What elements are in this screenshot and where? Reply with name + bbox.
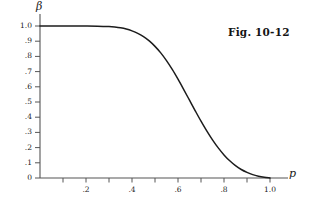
y-tick-label: 0 (4, 174, 32, 182)
axis-lines (40, 14, 288, 178)
tick-marks (35, 26, 270, 183)
x-tick-label: .8 (210, 186, 238, 194)
x-axis-symbol: p (289, 168, 296, 179)
y-tick-label: .3 (4, 128, 32, 136)
beta-curve (40, 26, 270, 178)
x-tick-label: .4 (118, 186, 146, 194)
x-tick-label: .2 (72, 186, 100, 194)
figure-container: β p Fig. 10-12 0.1.2.3.4.5.6.7.8.91.0 .2… (0, 0, 315, 219)
y-tick-label: .1 (4, 159, 32, 167)
figure-caption: Fig. 10-12 (228, 26, 290, 38)
y-tick-label: 1.0 (4, 22, 32, 30)
y-tick-label: .7 (4, 68, 32, 76)
y-tick-label: .8 (4, 52, 32, 60)
y-tick-label: .9 (4, 37, 32, 45)
y-tick-label: .4 (4, 113, 32, 121)
y-axis-symbol: β (36, 1, 42, 12)
x-tick-label: .6 (164, 186, 192, 194)
y-tick-label: .6 (4, 83, 32, 91)
y-tick-label: .5 (4, 98, 32, 106)
x-tick-label: 1.0 (256, 186, 284, 194)
y-tick-label: .2 (4, 144, 32, 152)
